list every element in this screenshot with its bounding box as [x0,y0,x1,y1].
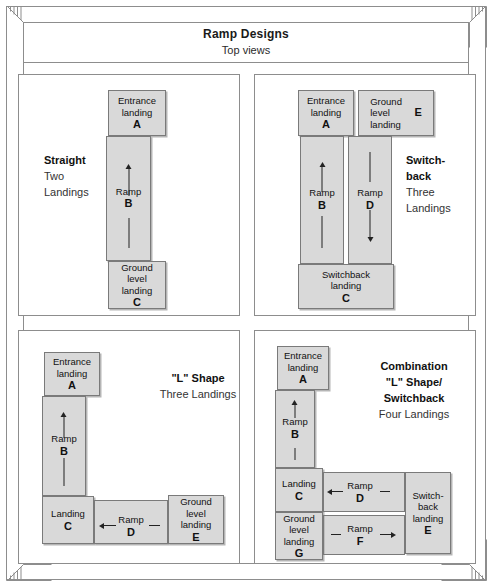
switchback-ramp-d-head-line [370,152,371,182]
switchback-ramp-d-direction-arrow-icon [370,210,371,238]
lshape-e-letter: E [192,532,199,544]
figure-subtitle: Top views [24,44,468,56]
caption-combination-title-line-2: "L" Shape/ [358,374,470,390]
combination-ramp-f-direction-arrow-icon [380,534,392,535]
caption-switchback-line-2: Landings [406,200,482,216]
combination-ramp-b-direction-arrow-icon [294,404,295,418]
lshape-a-letter: A [68,380,76,392]
combination-e-label-line-2: back [418,501,438,513]
combination-a-label-line-1: Entrance [284,350,322,362]
switchback-c-letter: C [342,293,350,305]
combination-b-label: Ramp [282,416,307,428]
switchback-ramp-b-tail-line [322,216,323,248]
combination-f-letter: F [337,536,383,548]
lshape-a-label-line-1: Entrance [53,356,91,368]
switchback-b-letter: B [318,200,326,212]
combination-c-letter: C [295,491,303,503]
caption-lshape-title: "L" Shape [150,370,246,386]
lshape-e-label-line-1: Ground [180,496,212,508]
combination-g-label-line-2: level [289,524,309,536]
combination-e-letter: E [424,525,431,537]
straight-ground-level-landing-c: Ground level landing C [108,261,166,309]
combination-d-label: Ramp [347,480,372,491]
combination-e-label-line-1: Switch- [412,490,443,502]
combination-ground-level-landing-g: Ground level landing G [275,512,323,560]
combination-a-letter: A [299,374,307,386]
lshape-e-label-line-2: level [186,508,206,520]
caption-switchback-title-line-1: Switch- [406,152,482,168]
switchback-c-label-line-1: Switchback [322,269,370,281]
combination-ramp-d-direction-arrow-icon [331,491,343,492]
caption-switchback-title-line-2: back [406,168,482,184]
straight-c-letter: C [133,297,141,309]
switchback-a-label-line-2: landing [311,107,342,119]
combination-ramp-d-tail-dash [380,491,390,492]
straight-ramp-b-tail-line [128,218,129,248]
straight-b-letter: B [125,198,133,210]
figure-title-band: Ramp Designs Top views [24,23,468,61]
caption-lshape-line-1: Three Landings [150,386,246,402]
caption-combination-line-1: Four Landings [358,406,470,422]
combination-f-label: Ramp [347,523,372,534]
figure-title: Ramp Designs [24,27,468,41]
combination-b-letter: B [291,429,299,441]
combination-g-label-line-3: landing [284,536,315,548]
lshape-b-letter: B [60,446,68,458]
straight-c-label-line-1: Ground [121,262,153,274]
caption-combination-title-line-1: Combination [358,358,470,374]
straight-ramp-b-direction-arrow-icon [128,168,129,196]
lshape-ramp-d-tail-dash [149,525,160,526]
combination-ramp-b-tail-line [294,448,295,460]
switchback-e-letter: E [414,107,421,119]
lshape-d-label: Ramp [118,514,143,525]
caption-lshape: "L" Shape Three Landings [150,370,246,402]
lshape-e-label-line-3: landing [181,519,212,531]
combination-ramp-d-text: Ramp D [337,480,383,504]
switchback-d-label: Ramp [357,187,382,199]
lshape-ramp-d-text: Ramp D [108,514,154,538]
switchback-ramp-b-direction-arrow-icon [322,166,323,192]
lshape-d-letter: D [108,527,154,539]
switchback-c-label-line-2: landing [331,280,362,292]
combination-ramp-f-text: Ramp F [337,523,383,547]
lshape-b-label: Ramp [51,433,76,445]
combination-landing-c: Landing C [275,468,323,512]
lshape-ramp-d-direction-arrow-icon [103,525,116,526]
straight-a-label-line-2: landing [122,107,153,119]
switchback-entrance-landing-a: Entrance landing A [298,90,354,136]
switchback-e-label-line-1: Ground [370,96,402,108]
switchback-e-label-line-2: level [370,107,402,119]
straight-c-label-line-2: level [127,273,147,285]
combination-e-label-line-3: landing [413,513,444,525]
lshape-ramp-b-direction-arrow-icon [63,416,64,438]
lshape-landing-c: Landing C [42,496,94,544]
combination-c-label: Landing [282,478,316,490]
switchback-a-label-line-1: Entrance [307,95,345,107]
straight-entrance-landing-a: Entrance landing A [108,90,166,136]
lshape-ramp-b: Ramp B [42,396,86,496]
caption-combination-title-line-3: Switchback [358,390,470,406]
caption-switchback: Switch- back Three Landings [406,152,482,216]
caption-switchback-line-1: Three [406,184,482,200]
combination-entrance-landing-a: Entrance landing A [277,346,329,390]
switchback-ground-level-landing-e: Ground level landing E [358,90,434,136]
lshape-c-letter: C [64,521,72,533]
combination-d-letter: D [337,493,383,505]
switchback-e-label-line-3: landing [370,119,402,131]
combination-g-label-line-1: Ground [283,513,315,525]
lshape-ramp-b-tail-line [63,458,64,486]
straight-a-letter: A [133,119,141,131]
caption-combination: Combination "L" Shape/ Switchback Four L… [358,358,470,422]
straight-c-label-line-3: landing [122,285,153,297]
title-divider [24,62,468,63]
combination-g-letter: G [295,548,304,560]
lshape-a-label-line-2: landing [57,368,88,380]
lshape-ground-level-landing-e: Ground level landing E [168,495,224,544]
switchback-landing-c: Switchback landing C [298,264,394,309]
ramp-designs-figure: Ramp Designs Top views Straight Two Land… [0,0,493,587]
switchback-a-letter: A [322,119,330,131]
combination-ramp-f-tail-dash [331,534,341,535]
lshape-c-label: Landing [51,508,85,520]
combination-switchback-landing-e: Switch- back landing E [405,472,451,554]
lshape-entrance-landing-a: Entrance landing A [44,352,100,396]
